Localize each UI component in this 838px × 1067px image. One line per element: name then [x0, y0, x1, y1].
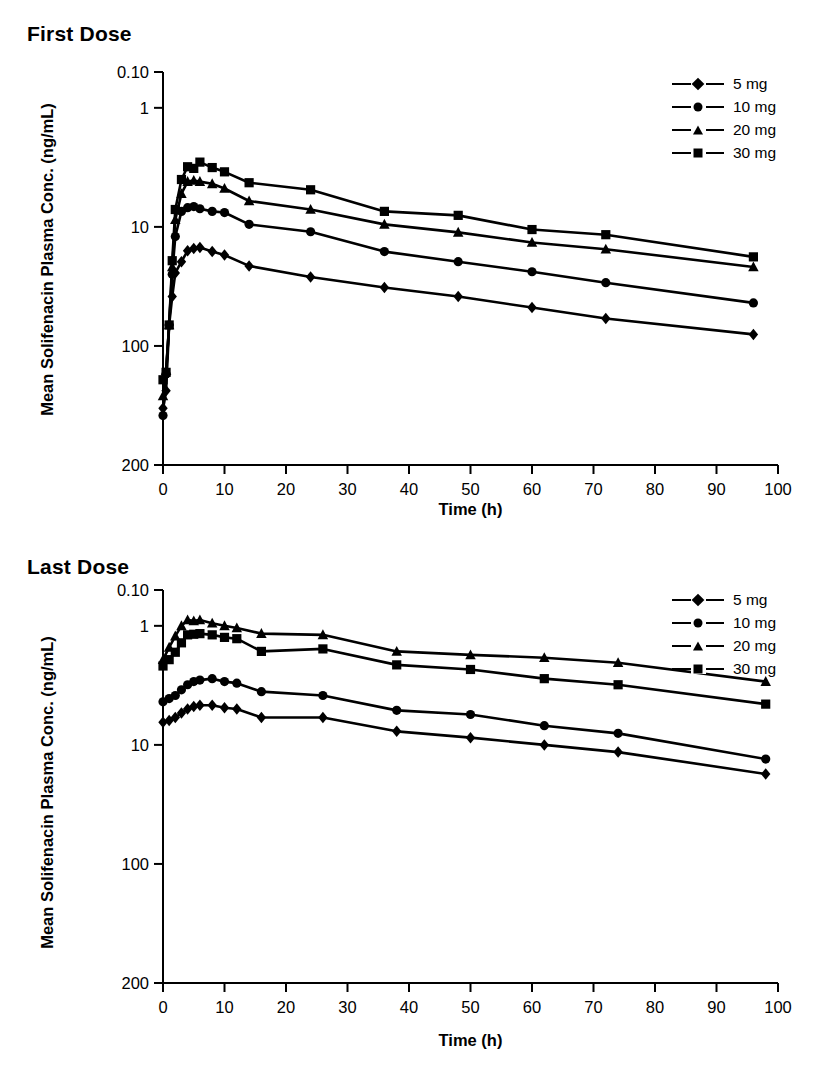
data-point-circle-marker — [232, 679, 241, 688]
x-tick-label: 70 — [584, 998, 602, 1016]
x-tick-label: 80 — [646, 480, 664, 498]
legend-item-20-mg: 20 mg — [672, 634, 776, 657]
legend-item-30-mg: 30 mg — [672, 141, 776, 164]
data-point-circle-marker — [466, 710, 475, 719]
legend-last-dose: 5 mg10 mg20 mg30 mg — [672, 588, 776, 680]
first-dose-panel: First Dose Mean Solifenacin Plasma Conc.… — [0, 0, 838, 533]
data-point-diamond-marker — [601, 313, 610, 325]
data-point-square-marker — [165, 320, 174, 329]
y-tick-label: 100 — [121, 855, 149, 873]
series-20-mg — [158, 175, 759, 400]
x-tick-label: 90 — [707, 480, 725, 498]
x-axis-label-last: Time (h) — [163, 1031, 778, 1050]
series-5-mg — [158, 700, 770, 780]
data-point-square-marker — [540, 674, 549, 683]
data-point-square-marker — [195, 158, 204, 167]
y-tick-label: 0.10 — [117, 581, 149, 599]
legend-label: 5 mg — [733, 75, 767, 93]
data-point-diamond-marker — [318, 712, 327, 724]
data-point-circle-marker — [257, 687, 266, 696]
data-point-circle-marker — [749, 298, 758, 307]
square-marker — [672, 145, 724, 161]
data-point-circle-marker — [601, 278, 610, 287]
x-tick-label: 30 — [338, 998, 356, 1016]
y-tick-label: 1 — [140, 617, 149, 635]
data-point-circle-marker — [158, 411, 167, 420]
data-point-circle-marker — [614, 729, 623, 738]
data-point-diamond-marker — [220, 249, 229, 261]
circle-marker — [672, 615, 724, 631]
legend-item-20-mg: 20 mg — [672, 118, 776, 141]
data-point-circle-marker — [195, 676, 204, 685]
data-point-square-marker — [171, 205, 180, 214]
data-point-circle-marker — [380, 247, 389, 256]
x-tick-label: 30 — [338, 480, 356, 498]
data-point-square-marker — [306, 185, 315, 194]
triangle-marker — [672, 638, 724, 654]
data-point-square-marker — [161, 368, 170, 377]
x-tick-label: 70 — [584, 480, 602, 498]
x-tick-label: 10 — [215, 480, 233, 498]
data-point-square-marker — [220, 167, 229, 176]
x-tick-label: 100 — [764, 998, 792, 1016]
data-point-circle-marker — [761, 754, 770, 763]
data-point-diamond-marker — [257, 712, 266, 724]
legend-label: 30 mg — [733, 660, 776, 678]
legend-item-30-mg: 30 mg — [672, 657, 776, 680]
legend-label: 20 mg — [733, 637, 776, 655]
y-tick-label: 0.10 — [117, 63, 149, 81]
data-point-circle-marker — [220, 208, 229, 217]
data-point-diamond-marker — [207, 700, 216, 712]
x-tick-label: 50 — [461, 998, 479, 1016]
diamond-marker — [672, 592, 724, 608]
data-point-circle-marker — [195, 204, 204, 213]
data-point-square-marker — [614, 680, 623, 689]
data-point-diamond-marker — [527, 302, 536, 314]
x-tick-label: 20 — [277, 998, 295, 1016]
data-point-square-marker — [171, 648, 180, 657]
legend-item-10-mg: 10 mg — [672, 95, 776, 118]
x-tick-label: 10 — [215, 998, 233, 1016]
data-point-circle-marker — [527, 267, 536, 276]
x-tick-label: 20 — [277, 480, 295, 498]
data-point-circle-marker — [540, 721, 549, 730]
data-point-square-marker — [220, 633, 229, 642]
data-point-square-marker — [257, 647, 266, 656]
data-point-square-marker — [245, 178, 254, 187]
data-point-diamond-marker — [207, 246, 216, 257]
data-point-circle-marker — [306, 227, 315, 236]
y-tick-label: 100 — [121, 337, 149, 355]
y-tick-label: 1 — [140, 99, 149, 117]
series-30-mg — [158, 158, 758, 385]
data-point-square-marker — [177, 175, 186, 184]
x-tick-label: 0 — [158, 998, 167, 1016]
data-point-diamond-marker — [761, 768, 770, 780]
x-tick-label: 40 — [400, 480, 418, 498]
legend-label: 5 mg — [733, 591, 767, 609]
last-dose-panel: Last Dose Mean Solifenacin Plasma Conc. … — [0, 533, 838, 1067]
data-point-diamond-marker — [453, 291, 462, 303]
x-tick-label: 90 — [707, 998, 725, 1016]
data-point-circle-marker — [208, 674, 217, 683]
data-point-square-marker — [232, 634, 241, 643]
data-point-square-marker — [749, 252, 758, 261]
legend-item-10-mg: 10 mg — [672, 611, 776, 634]
x-tick-label: 60 — [523, 480, 541, 498]
data-point-diamond-marker — [392, 726, 401, 738]
y-tick-label: 10 — [131, 218, 149, 236]
series-5-mg — [158, 242, 758, 414]
data-point-square-marker — [195, 629, 204, 638]
legend-label: 10 mg — [733, 98, 776, 116]
data-point-square-marker — [527, 225, 536, 234]
x-axis-label-first: Time (h) — [163, 500, 778, 519]
triangle-marker — [672, 122, 724, 138]
data-point-square-marker — [454, 211, 463, 220]
data-point-diamond-marker — [613, 746, 622, 758]
x-tick-label: 40 — [400, 998, 418, 1016]
x-tick-label: 0 — [158, 480, 167, 498]
x-tick-label: 100 — [764, 480, 792, 498]
y-tick-label: 10 — [131, 736, 149, 754]
legend-label: 20 mg — [733, 121, 776, 139]
legend-item-5-mg: 5 mg — [672, 588, 776, 611]
data-point-diamond-marker — [244, 260, 253, 272]
